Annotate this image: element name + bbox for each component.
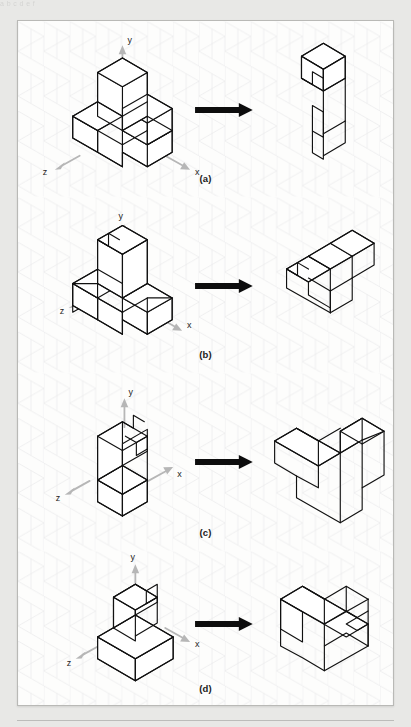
page-bottom-rule — [17, 720, 394, 721]
panel-d: y x z — [18, 551, 393, 706]
caption-d: (d) — [18, 683, 393, 694]
axis-label-x-c: x — [177, 469, 182, 479]
caption-a: (a) — [18, 173, 393, 184]
axis-label-z-d: z — [67, 658, 72, 668]
axis-label-y-d: y — [130, 552, 135, 562]
page-bleed-text: a b c d e f — [0, 0, 411, 12]
caption-b: (b) — [18, 349, 393, 360]
panel-a: y x z — [18, 21, 393, 197]
figure-panel-container: y x z — [17, 20, 394, 706]
axis-label-x-b: x — [187, 320, 192, 330]
axis-label-y-a: y — [127, 35, 132, 45]
panel-b-diagram: y x z — [18, 197, 393, 373]
panel-a-diagram: y x z — [18, 21, 393, 197]
panel-c-diagram: y x z — [18, 373, 393, 551]
axis-label-y-b: y — [118, 211, 123, 221]
axis-label-z-c: z — [56, 493, 61, 503]
axis-label-x-d: x — [195, 639, 200, 649]
axis-label-z-b: z — [60, 306, 65, 316]
panel-b: y x z — [18, 197, 393, 373]
caption-c: (c) — [18, 527, 393, 538]
panel-c: y x z — [18, 373, 393, 551]
axis-label-y-c: y — [128, 387, 133, 397]
